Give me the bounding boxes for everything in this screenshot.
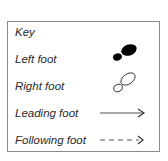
legend-label-leading-foot: Leading foot	[15, 106, 78, 120]
key-title: Key	[15, 25, 35, 39]
legend-label-following-foot: Following foot	[15, 133, 86, 147]
solid-arrow-icon	[98, 106, 148, 120]
dashed-arrow-icon	[98, 133, 148, 147]
legend-label-right-foot: Right foot	[15, 79, 64, 93]
left-foot-icon	[110, 42, 140, 64]
legend-label-left-foot: Left foot	[15, 52, 57, 66]
key-legend-box: Key Left foot Right foot Leading foot Fo…	[7, 21, 160, 152]
right-foot-icon	[111, 70, 139, 96]
